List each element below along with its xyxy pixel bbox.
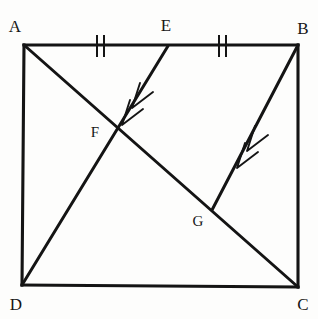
segment-ed-arrowheads <box>122 83 153 125</box>
vertex-label-b: B <box>297 19 308 38</box>
vertex-label-d: D <box>10 295 22 314</box>
point-label-g: G <box>193 213 204 229</box>
segment-bg <box>212 45 298 210</box>
side-cd <box>22 285 298 287</box>
point-label-f: F <box>91 124 99 140</box>
arrow-chevron-bg-1 <box>247 126 268 151</box>
segment-ed-line <box>22 46 168 285</box>
diagonal-ac-line <box>24 45 298 287</box>
vertex-label-a: A <box>9 17 22 36</box>
point-label-e: E <box>161 16 171 35</box>
diagonal-ac <box>24 45 298 287</box>
segment-ed <box>22 46 168 285</box>
geometry-canvas: A B C D E F G <box>0 0 318 319</box>
vertex-label-c: C <box>297 295 308 314</box>
segment-bg-arrowheads <box>237 126 268 168</box>
geometry-figure: A B C D E F G <box>0 0 318 319</box>
side-da <box>22 45 24 285</box>
